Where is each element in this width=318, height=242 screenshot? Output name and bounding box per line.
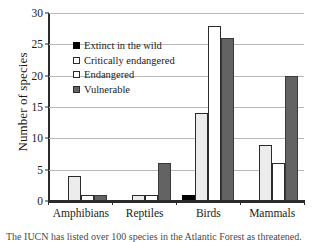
x-tickmark (240, 200, 241, 205)
x-tickmark (304, 200, 305, 205)
legend-swatch-icon (73, 71, 80, 78)
bar (285, 76, 298, 201)
legend-item[interactable]: Extinct in the wild (73, 40, 175, 52)
bar (208, 26, 221, 201)
x-tick-label: Reptiles (113, 207, 177, 219)
y-axis-title: Number of species (15, 17, 31, 187)
legend-swatch-icon (73, 57, 80, 64)
legend-item[interactable]: Endangered (73, 69, 175, 81)
y-tick-label: 20 (32, 70, 44, 82)
bar-group (240, 13, 304, 201)
bar (259, 145, 272, 201)
x-tickmark (112, 200, 113, 205)
chart-figure: Number of species 051015202530 Amphibian… (0, 0, 318, 242)
y-tick-label: 0 (37, 195, 43, 207)
legend-label: Endangered (84, 69, 134, 81)
legend-swatch-icon (73, 86, 80, 93)
chart-legend: Extinct in the wildCritically endangered… (73, 40, 175, 95)
bar (272, 163, 285, 201)
legend-item[interactable]: Vulnerable (73, 84, 175, 96)
x-tickmark (48, 200, 49, 205)
y-tick-label: 10 (32, 132, 44, 144)
bar (68, 176, 81, 201)
bar (158, 163, 171, 201)
x-tick-label: Birds (177, 207, 241, 219)
bar-group (177, 13, 241, 201)
y-tick-label: 30 (32, 7, 44, 19)
y-tick-label: 15 (32, 101, 44, 113)
x-axis-labels: AmphibiansReptilesBirdsMammals (49, 207, 304, 219)
y-tick-label: 5 (37, 164, 43, 176)
legend-label: Vulnerable (84, 84, 130, 96)
legend-label: Extinct in the wild (84, 40, 162, 52)
legend-swatch-icon (73, 42, 80, 49)
x-tick-label: Amphibians (49, 207, 113, 219)
legend-item[interactable]: Critically endangered (73, 55, 175, 67)
bar (221, 38, 234, 201)
legend-label: Critically endangered (84, 55, 175, 67)
y-tick-label: 25 (32, 38, 44, 50)
x-tick-label: Mammals (240, 207, 304, 219)
bar (195, 113, 208, 201)
figure-caption: The IUCN has listed over 100 species in … (6, 231, 318, 242)
x-tickmark (176, 200, 177, 205)
